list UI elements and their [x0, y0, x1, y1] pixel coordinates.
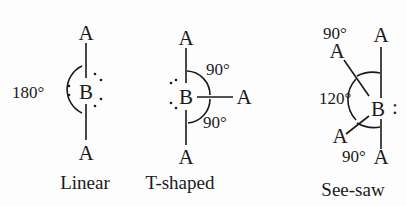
see-saw-top-angle-arc [357, 72, 380, 76]
linear-caption: Linear [60, 172, 110, 193]
see-saw-bottom-atom: A [373, 145, 389, 169]
t-shaped-lower-angle-label: 90° [203, 113, 227, 132]
t-shaped-lone-pairs [170, 79, 178, 110]
see-saw-top-atom: A [373, 23, 389, 47]
see-saw-lower-left-bond [346, 116, 369, 134]
linear-bottom-atom: A [78, 141, 94, 165]
see-saw-lone-pair: : [392, 95, 398, 119]
t-shaped-diagram: A B A A 90° 90° T-shaped [146, 26, 253, 193]
see-saw-diagram: 90° A A B : A 90° A 120° See-saw [319, 23, 398, 200]
t-shaped-right-atom: A [236, 85, 252, 109]
see-saw-bottom-angle-label: 90° [342, 147, 366, 166]
see-saw-caption: See-saw [321, 179, 385, 200]
linear-diagram: A B A 180° Linear [12, 21, 110, 193]
molecular-geometry-figure: A B A 180° Linear A B A [0, 0, 406, 206]
t-shaped-central-atom: B [179, 85, 193, 109]
see-saw-upper-left-atom: A [329, 39, 345, 63]
linear-top-atom: A [78, 21, 94, 45]
see-saw-lower-left-atom: A [332, 124, 348, 148]
see-saw-equatorial-angle-label: 120° [319, 89, 351, 108]
linear-central-atom: B [79, 80, 93, 104]
linear-angle-label: 180° [12, 83, 44, 102]
t-shaped-bottom-atom: A [178, 145, 194, 169]
t-shaped-caption: T-shaped [146, 172, 215, 193]
t-shaped-top-atom: A [178, 26, 194, 50]
t-shaped-upper-angle-label: 90° [206, 60, 230, 79]
see-saw-central-atom: B [371, 97, 385, 121]
